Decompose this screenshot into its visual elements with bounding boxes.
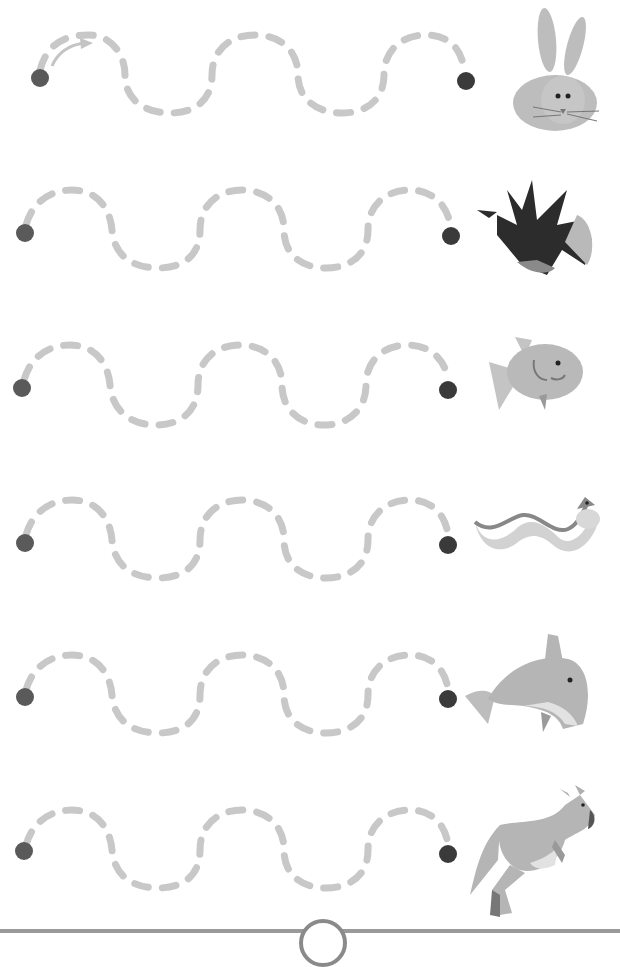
end-dot	[439, 690, 457, 708]
bird-icon	[477, 180, 602, 285]
page-number-circle	[299, 919, 347, 967]
start-dot	[15, 842, 33, 860]
fish-icon	[487, 332, 587, 417]
trace-row-bird	[0, 155, 620, 310]
rabbit-icon	[505, 8, 605, 133]
trace-row-fish	[0, 310, 620, 465]
start-dot	[31, 69, 49, 87]
arrow-head-icon	[80, 38, 93, 49]
end-dot	[439, 381, 457, 399]
trace-row-kangaroo	[0, 775, 620, 930]
start-dot	[16, 534, 34, 552]
start-dot	[13, 379, 31, 397]
end-dot	[442, 227, 460, 245]
worm-icon	[473, 497, 603, 557]
trace-row-worm	[0, 465, 620, 620]
trace-row-rabbit	[0, 0, 620, 155]
trace-row-dolphin	[0, 620, 620, 775]
dolphin-icon	[463, 634, 593, 734]
kangaroo-icon	[470, 785, 605, 920]
end-dot	[457, 72, 475, 90]
start-dot	[16, 688, 34, 706]
end-dot	[439, 845, 457, 863]
start-dot	[16, 224, 34, 242]
end-dot	[439, 536, 457, 554]
